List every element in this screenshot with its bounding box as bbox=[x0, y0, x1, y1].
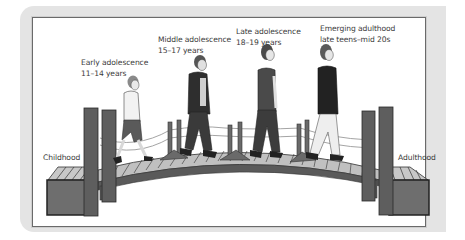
stage-ages: 18–19 years bbox=[236, 38, 301, 49]
adulthood-platform bbox=[389, 167, 429, 215]
early-adolescent-figure bbox=[113, 76, 153, 165]
emerging-adult-figure bbox=[306, 44, 344, 161]
stage-name: Middle adolescence bbox=[158, 35, 231, 46]
stage-ages: 15–17 years bbox=[158, 46, 231, 57]
late-adolescent-figure bbox=[250, 44, 283, 158]
childhood-label: Childhood bbox=[43, 153, 80, 164]
adulthood-label: Adulthood bbox=[398, 153, 436, 164]
middle-adolescent-figure bbox=[180, 55, 217, 158]
stage-name: Early adolescence bbox=[81, 58, 148, 69]
stage-name: Emerging adulthood bbox=[320, 24, 395, 35]
stage-early-adolescence: Early adolescence 11–14 years bbox=[81, 58, 148, 79]
stage-ages: 11–14 years bbox=[81, 69, 148, 80]
stage-name: Late adolescence bbox=[236, 27, 301, 38]
stage-emerging-adulthood: Emerging adulthood late teens–mid 20s bbox=[320, 24, 395, 45]
stage-middle-adolescence: Middle adolescence 15–17 years bbox=[158, 35, 231, 56]
stage-late-adolescence: Late adolescence 18–19 years bbox=[236, 27, 301, 48]
stage-ages: late teens–mid 20s bbox=[320, 35, 395, 46]
